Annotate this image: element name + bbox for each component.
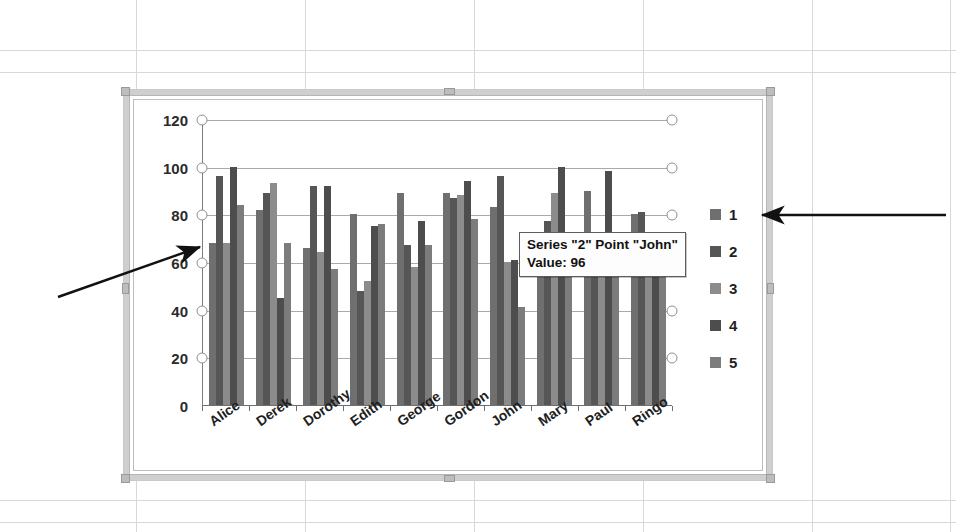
bar[interactable] — [518, 307, 525, 405]
bar[interactable] — [237, 205, 244, 405]
sheet-column-divider — [812, 0, 813, 532]
y-axis-labels: 020406080100120 — [148, 120, 188, 406]
bar[interactable] — [317, 252, 324, 405]
y-axis-selection-dot[interactable] — [197, 353, 208, 364]
bar[interactable] — [591, 269, 598, 405]
bar-group[interactable] — [391, 120, 438, 405]
bar[interactable] — [411, 267, 418, 405]
bar[interactable] — [558, 167, 565, 405]
legend-item[interactable]: 5 — [710, 344, 770, 381]
bar[interactable] — [378, 224, 385, 405]
resize-handle-top-right[interactable] — [766, 87, 775, 96]
bar[interactable] — [364, 281, 371, 405]
bar[interactable] — [357, 291, 364, 405]
x-axis-tick — [672, 406, 673, 411]
bar[interactable] — [659, 262, 666, 405]
bar-group[interactable] — [438, 120, 485, 405]
tooltip-line-value: Value: 96 — [527, 254, 678, 272]
legend-swatch-icon — [710, 283, 721, 294]
bar[interactable] — [497, 176, 504, 405]
bar-group[interactable] — [344, 120, 391, 405]
bar[interactable] — [284, 243, 291, 405]
plot-area-selection-dot[interactable] — [667, 210, 678, 221]
sheet-row-divider — [0, 522, 956, 523]
bar[interactable] — [397, 193, 404, 405]
bar[interactable] — [331, 269, 338, 405]
y-axis-tick-label: 100 — [148, 159, 188, 176]
bar[interactable] — [450, 198, 457, 405]
bar[interactable] — [645, 255, 652, 405]
bar[interactable] — [404, 245, 411, 405]
bar[interactable] — [652, 272, 659, 405]
bar[interactable] — [263, 193, 270, 405]
bar[interactable] — [598, 257, 605, 405]
bar-group[interactable] — [297, 120, 344, 405]
legend-item[interactable]: 1 — [710, 196, 770, 233]
bar[interactable] — [537, 255, 544, 405]
legend-label: 5 — [729, 354, 737, 371]
legend-item[interactable]: 4 — [710, 307, 770, 344]
bar[interactable] — [209, 243, 216, 405]
bar[interactable] — [612, 267, 619, 405]
legend-swatch-icon — [710, 357, 721, 368]
bar[interactable] — [223, 243, 230, 405]
bar[interactable] — [230, 167, 237, 405]
sheet-row-divider — [0, 50, 956, 51]
bar[interactable] — [605, 171, 612, 405]
y-axis-selection-dot[interactable] — [197, 162, 208, 173]
bar[interactable] — [270, 183, 277, 405]
bar[interactable] — [464, 181, 471, 405]
bar[interactable] — [310, 186, 317, 405]
legend-label: 1 — [729, 206, 737, 223]
resize-handle-bottom-left[interactable] — [121, 474, 130, 483]
resize-handle-middle-left[interactable] — [122, 283, 129, 294]
legend-label: 2 — [729, 243, 737, 260]
bar[interactable] — [471, 219, 478, 405]
plot-area-selection-dot[interactable] — [667, 115, 678, 126]
bar[interactable] — [277, 298, 284, 405]
y-axis-selection-dot[interactable] — [197, 210, 208, 221]
bar[interactable] — [216, 176, 223, 405]
y-axis-selection-dot[interactable] — [197, 305, 208, 316]
bar[interactable] — [371, 226, 378, 405]
y-axis-selection-dot[interactable] — [197, 115, 208, 126]
bar[interactable] — [425, 245, 432, 405]
bar[interactable] — [551, 193, 558, 405]
bar-group[interactable] — [250, 120, 297, 405]
bar[interactable] — [584, 191, 591, 406]
bar[interactable] — [303, 248, 310, 405]
bar[interactable] — [256, 210, 263, 405]
y-axis-tick-label: 120 — [148, 112, 188, 129]
data-point-tooltip: Series "2" Point "John" Value: 96 — [519, 232, 686, 277]
plot-area-selection-dot[interactable] — [667, 305, 678, 316]
legend-label: 4 — [729, 317, 737, 334]
bar-group[interactable] — [203, 120, 250, 405]
plot-area-selection-dot[interactable] — [667, 162, 678, 173]
legend-swatch-icon — [710, 320, 721, 331]
resize-handle-bottom-right[interactable] — [766, 474, 775, 483]
y-axis-selection-dot[interactable] — [197, 258, 208, 269]
plot-area-selection-dot[interactable] — [667, 353, 678, 364]
resize-handle-top-left[interactable] — [121, 87, 130, 96]
tooltip-line-series-point: Series "2" Point "John" — [527, 236, 678, 254]
y-axis-tick-label: 0 — [148, 398, 188, 415]
bar[interactable] — [490, 207, 497, 405]
bar[interactable] — [350, 214, 357, 405]
legend-swatch-icon — [710, 209, 721, 220]
bar[interactable] — [443, 193, 450, 405]
bar[interactable] — [504, 262, 511, 405]
chart-canvas[interactable]: 020406080100120 AliceDerekDorothyEdithGe… — [133, 99, 763, 471]
bar[interactable] — [511, 260, 518, 405]
legend-label: 3 — [729, 280, 737, 297]
bar[interactable] — [324, 186, 331, 405]
chart-legend[interactable]: 12345 — [710, 196, 770, 381]
bar[interactable] — [457, 195, 464, 405]
sheet-row-divider — [0, 500, 956, 501]
bar[interactable] — [565, 257, 572, 405]
resize-handle-top-center[interactable] — [444, 88, 455, 95]
bar[interactable] — [418, 221, 425, 405]
legend-item[interactable]: 2 — [710, 233, 770, 270]
y-axis-tick-label: 80 — [148, 207, 188, 224]
chart-object[interactable]: 020406080100120 AliceDerekDorothyEdithGe… — [124, 90, 772, 480]
legend-item[interactable]: 3 — [710, 270, 770, 307]
